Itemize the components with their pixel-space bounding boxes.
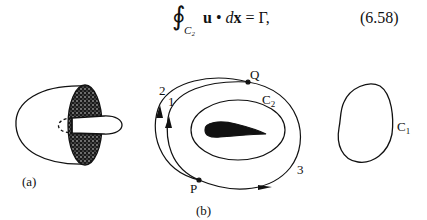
path-3-label: 3 (297, 162, 304, 177)
path-1-label: 1 (168, 94, 175, 109)
point-P-label: P (190, 181, 197, 196)
figure-b-label: (b) (196, 203, 211, 218)
airfoil (205, 122, 266, 137)
handle (72, 116, 122, 134)
point-P-marker (197, 178, 201, 182)
figure: (a) Q P 2 1 3 C2 (b) C1 (0, 0, 427, 220)
contour-C2-label: C2 (262, 92, 275, 109)
arrow-path-1 (165, 116, 172, 128)
point-Q-label: Q (250, 67, 260, 82)
arrow-path-3 (258, 185, 272, 190)
figure-a-label: (a) (22, 174, 36, 189)
contour-C1 (338, 84, 392, 162)
figure-b-contours (155, 78, 300, 190)
path-2-label: 2 (159, 83, 166, 98)
contour-C1-label: C1 (397, 119, 410, 136)
figure-a-shell (16, 85, 122, 165)
